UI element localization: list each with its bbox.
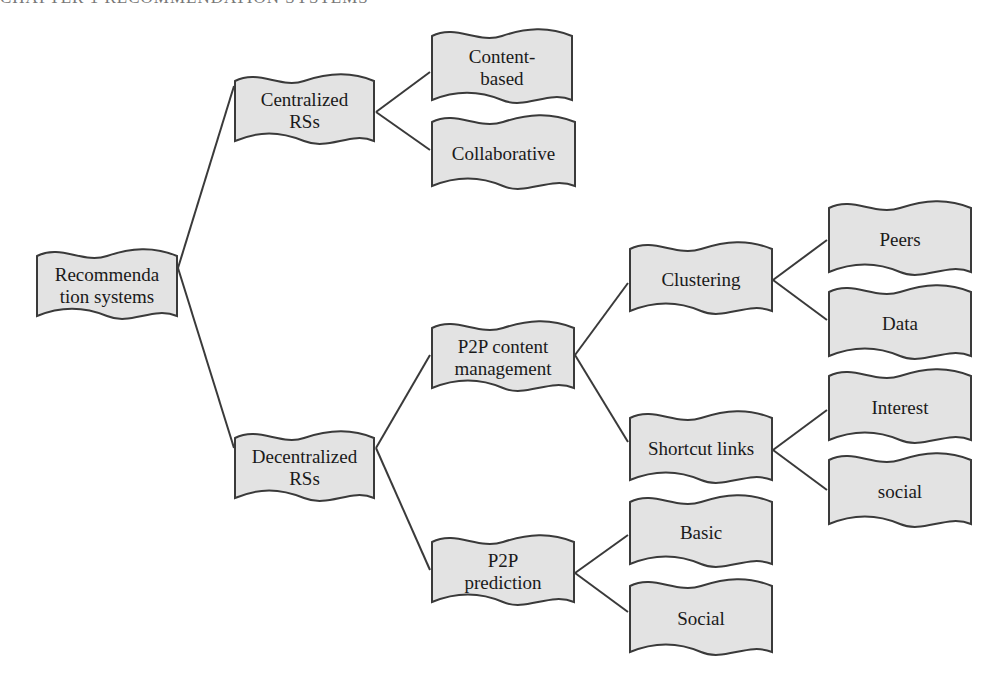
edge-decentral-p2ppred (376, 448, 430, 570)
node-label-line1: social (878, 481, 922, 503)
edge-shortcut-interest (773, 410, 827, 450)
node-label-line1: Collaborative (452, 143, 555, 165)
node-p2p-content-management: P2P contentmanagement (430, 322, 576, 394)
edge-decentral-p2pcm (376, 355, 430, 448)
edge-p2pcm-clustering (575, 283, 628, 355)
node-label-line1: P2P (464, 550, 541, 572)
node-decentralized-rss: DecentralizedRSs (233, 432, 376, 504)
edge-clustering-peers (773, 240, 827, 280)
node-p2p-prediction: P2Pprediction (430, 536, 576, 608)
node-social-shortcut: social (827, 454, 973, 530)
node-shortcut-links: Shortcut links (628, 412, 774, 486)
node-peers: Peers (827, 202, 973, 278)
edge-root-centralized (178, 86, 234, 268)
node-label-line1: Interest (872, 397, 929, 419)
node-label-line2: management (454, 358, 551, 380)
node-label-line1: Decentralized (252, 446, 357, 468)
node-label-line1: Clustering (661, 269, 740, 291)
node-label-line1: Peers (879, 229, 920, 251)
edge-centralized-content (376, 72, 430, 112)
node-collaborative: Collaborative (430, 116, 577, 192)
node-data: Data (827, 286, 973, 362)
node-social: Social (628, 580, 774, 658)
node-centralized-rss: CentralizedRSs (233, 75, 376, 147)
node-label-line1: Basic (680, 522, 722, 544)
node-label-line1: Shortcut links (648, 438, 754, 460)
node-content-based: Content-based (430, 30, 574, 106)
node-clustering: Clustering (628, 243, 774, 317)
node-label-line1: Centralized (261, 89, 349, 111)
edge-centralized-collab (376, 112, 430, 150)
node-interest: Interest (827, 370, 973, 446)
node-label-line1: P2P content (454, 336, 551, 358)
edge-p2ppred-social (575, 573, 628, 612)
node-recommendation-systems: Recommendation systems (35, 250, 179, 322)
node-label-line2: RSs (252, 468, 357, 490)
node-label-line2: tion systems (55, 286, 159, 308)
node-label-line1: Recommenda (55, 264, 159, 286)
node-basic: Basic (628, 496, 774, 570)
node-label-line1: Content- (469, 46, 536, 68)
node-label-line2: based (469, 68, 536, 90)
node-label-line2: prediction (464, 572, 541, 594)
node-label-line1: Data (882, 313, 918, 335)
edge-p2ppred-basic (575, 535, 628, 573)
edge-p2pcm-shortcut (575, 355, 628, 442)
node-label-line1: Social (677, 608, 725, 630)
edge-root-decentralized (178, 268, 234, 448)
node-label-line2: RSs (261, 111, 349, 133)
edge-clustering-data (773, 280, 827, 320)
edge-shortcut-social (773, 450, 827, 490)
